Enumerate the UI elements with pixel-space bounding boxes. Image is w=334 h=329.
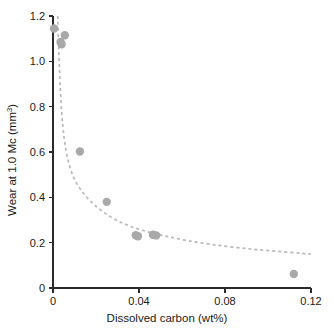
x-tick-label: 0.12 bbox=[300, 295, 321, 307]
data-point bbox=[61, 31, 69, 39]
y-axis-tick-marks bbox=[49, 16, 54, 288]
x-tick-label: 0 bbox=[50, 295, 56, 307]
x-axis-tick-marks bbox=[53, 288, 311, 293]
data-points bbox=[50, 24, 298, 278]
trend-line bbox=[58, 16, 311, 254]
x-tick-label: 0.08 bbox=[214, 295, 235, 307]
y-axis-tick-labels: 00.20.40.60.81.01.2 bbox=[30, 10, 45, 294]
chart-canvas: 00.20.40.60.81.01.2 00.040.080.12 Dissol… bbox=[0, 0, 334, 329]
y-tick-label: 0.4 bbox=[30, 191, 45, 203]
y-tick-label: 1.2 bbox=[30, 10, 45, 22]
y-tick-label: 0 bbox=[39, 282, 45, 294]
data-point bbox=[76, 147, 84, 155]
data-point bbox=[290, 270, 298, 278]
data-point bbox=[50, 24, 58, 32]
x-tick-label: 0.04 bbox=[128, 295, 149, 307]
y-axis-title-close: ) bbox=[6, 104, 18, 108]
data-point bbox=[57, 40, 65, 48]
y-tick-label: 0.2 bbox=[30, 237, 45, 249]
y-tick-label: 0.8 bbox=[30, 101, 45, 113]
y-axis-title: Wear at 1.0 Mc (mm3) bbox=[5, 104, 18, 216]
y-tick-label: 0.6 bbox=[30, 146, 45, 158]
data-point bbox=[152, 231, 160, 239]
y-tick-label: 1.0 bbox=[30, 55, 45, 67]
wear-vs-dissolved-carbon-chart: 00.20.40.60.81.01.2 00.040.080.12 Dissol… bbox=[0, 0, 334, 329]
axes bbox=[53, 16, 311, 288]
x-axis-tick-labels: 00.040.080.12 bbox=[50, 295, 322, 307]
data-point bbox=[103, 198, 111, 206]
y-axis-title-base: Wear at 1.0 Mc (mm bbox=[6, 112, 18, 216]
data-point bbox=[134, 232, 142, 240]
x-axis-title: Dissolved carbon (wt%) bbox=[107, 312, 228, 324]
